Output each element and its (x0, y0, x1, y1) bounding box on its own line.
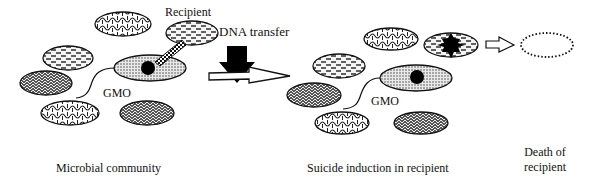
cell-herringbone (20, 71, 72, 95)
dna-transfer-arrows (209, 46, 290, 83)
caption-death-of-recipient: Death of recipient (520, 146, 570, 173)
cell-brick (41, 101, 99, 125)
caption-death-line2: recipient (520, 161, 570, 173)
diagram-canvas: Recipient DNA transfer GMO GMO Microbial… (0, 0, 589, 186)
dead-cell-outline (521, 33, 573, 57)
cell-dashes (313, 54, 365, 78)
label-gmo-right: GMO (371, 95, 399, 107)
gmo-nucleus (410, 70, 424, 84)
diagram-svg (0, 0, 589, 186)
panel-suicide-induction (287, 28, 478, 134)
caption-microbial-community: Microbial community (56, 162, 161, 174)
cell-brick (364, 28, 418, 50)
cell-herringbone (120, 101, 174, 125)
right-arrow-small-icon (486, 37, 514, 52)
label-gmo-left: GMO (103, 87, 131, 99)
cell-herringbone (394, 112, 448, 134)
caption-death-line1: Death of (520, 146, 570, 158)
label-dna-transfer: DNA transfer (219, 25, 289, 38)
right-arrow-icon (209, 67, 290, 83)
cell-brick (315, 112, 369, 134)
panel-microbial-community (20, 12, 218, 125)
cell-recipient (166, 21, 218, 45)
caption-suicide-induction: Suicide induction in recipient (307, 162, 449, 174)
gmo-nucleus (141, 61, 155, 75)
cell-herringbone (287, 83, 341, 107)
label-recipient: Recipient (165, 6, 211, 18)
cell-dashes (43, 46, 93, 70)
cell-brick (95, 12, 151, 36)
